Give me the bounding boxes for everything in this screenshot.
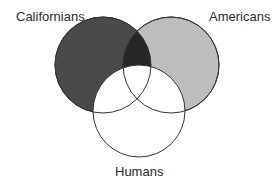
californians-label: Californians: [16, 10, 85, 23]
humans-circle: [93, 65, 185, 157]
americans-label: Americans: [209, 10, 270, 23]
humans-label: Humans: [115, 165, 163, 178]
venn-diagram: [0, 0, 277, 185]
